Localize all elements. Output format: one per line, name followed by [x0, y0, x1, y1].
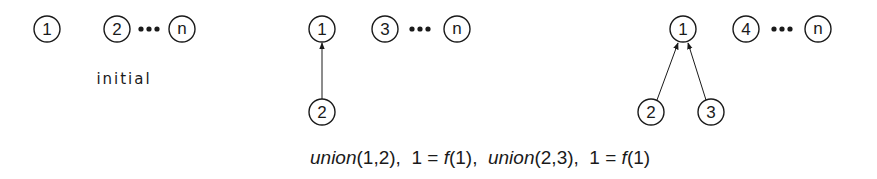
- svg-text:n: n: [813, 19, 822, 38]
- operations-caption: union(1,2), 1 = f(1), union(2,3), 1 = f(…: [310, 147, 650, 169]
- ellipsis-icon: [771, 26, 792, 31]
- node-n: n: [444, 16, 470, 42]
- node-3: 3: [698, 99, 724, 125]
- svg-text:2: 2: [112, 20, 121, 39]
- panel-after-union-1-2: 1 3 n 2: [309, 16, 470, 125]
- panel-label-initial: initial: [96, 70, 151, 88]
- edge-2-to-1: [657, 43, 678, 100]
- node-2: 2: [309, 99, 335, 125]
- node-2: 2: [104, 16, 130, 42]
- svg-text:3: 3: [380, 20, 389, 39]
- caption-find-args-1: (1),: [449, 147, 488, 168]
- svg-text:2: 2: [646, 103, 655, 122]
- node-1: 1: [34, 16, 60, 42]
- svg-text:n: n: [177, 19, 186, 38]
- svg-text:1: 1: [678, 20, 687, 39]
- panel-initial: 1 2 n initial: [34, 16, 195, 88]
- svg-text:1: 1: [42, 20, 51, 39]
- ellipsis-icon: [138, 26, 159, 31]
- caption-args-2: (2,3), 1 =: [534, 147, 621, 168]
- caption-find-args-2: (1): [627, 147, 650, 168]
- node-2: 2: [638, 99, 664, 125]
- edge-3-to-1: [688, 43, 706, 100]
- caption-union-2: union: [488, 147, 535, 168]
- node-1: 1: [309, 16, 335, 42]
- svg-text:3: 3: [706, 103, 715, 122]
- node-4: 4: [733, 16, 759, 42]
- svg-text:1: 1: [317, 20, 326, 39]
- svg-text:2: 2: [317, 103, 326, 122]
- node-3: 3: [372, 16, 398, 42]
- node-n: n: [169, 16, 195, 42]
- node-1: 1: [670, 16, 696, 42]
- union-find-diagram: 1 2 n initial 1 3: [0, 0, 877, 179]
- svg-text:4: 4: [741, 20, 750, 39]
- svg-text:n: n: [452, 19, 461, 38]
- panel-after-union-2-3: 1 4 n 2 3: [638, 16, 831, 125]
- ellipsis-icon: [409, 26, 430, 31]
- caption-args-1: (1,2), 1 =: [357, 147, 444, 168]
- caption-union-1: union: [310, 147, 357, 168]
- node-n: n: [805, 16, 831, 42]
